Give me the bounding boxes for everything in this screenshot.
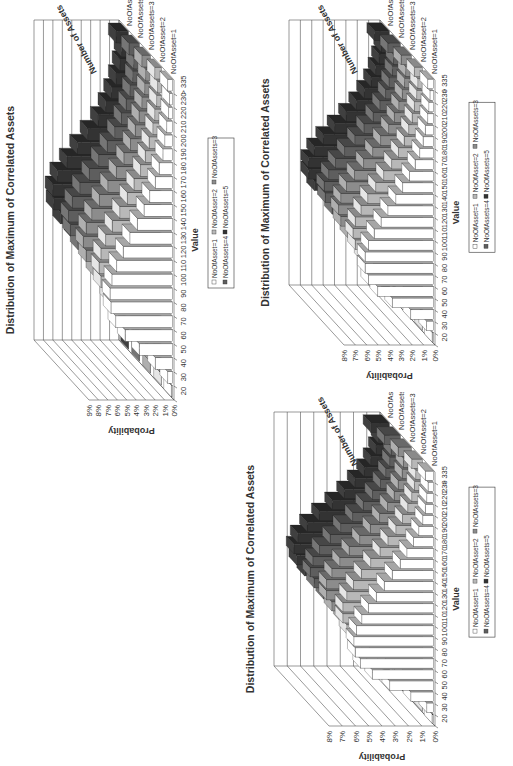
x-tick-label: 150 [440, 181, 449, 194]
series-axis-label: NoOfAssets=5 [125, 0, 134, 26]
series-axis-label: NoOfAsset=1 [169, 29, 178, 74]
bar [428, 114, 434, 124]
bar [407, 548, 434, 557]
bar [360, 659, 433, 668]
bar [163, 149, 172, 161]
x-tick-label: 70 [440, 659, 449, 667]
series-axis-label: NoOfAssets=4 [397, 392, 406, 430]
x-tick-label: 90 [440, 637, 449, 645]
legend-swatch [473, 629, 477, 633]
x-tick-label: 170 [179, 176, 188, 189]
series-axis-label: NoOfAsset=2 [419, 409, 428, 454]
x-tick-label: 140 [440, 193, 449, 206]
x-axis-label: Value [190, 228, 200, 252]
x-tick-label: 190 [440, 135, 449, 148]
legend-label: NoOfAsset=1 [211, 239, 218, 278]
z-axis-label: Number of Assets [315, 395, 360, 467]
legend-label: NoOfAssets=5 [483, 535, 490, 577]
bar [111, 302, 172, 314]
y-tick-label: 0% [431, 731, 440, 743]
x-tick-label: 40 [440, 310, 449, 318]
plot-area [34, 20, 174, 400]
x-tick-label: 110 [440, 228, 449, 240]
chart-b-svg: Distribution of Maximum of Correlated As… [255, 0, 513, 385]
bar [165, 135, 173, 147]
series-axis-label: NoOfAssets=3 [408, 1, 417, 50]
y-axis-label: Probability [108, 426, 155, 436]
legend-label: NoOfAssets=3 [472, 100, 479, 142]
chart-a: Distribution of Maximum of Correlated As… [0, 0, 252, 440]
chart-c: Distribution of Maximum of Correlated As… [240, 392, 513, 766]
y-tick-label: 6% [113, 405, 122, 417]
legend-swatch [212, 230, 216, 234]
x-tick-label: 20 [440, 714, 449, 722]
legend-label: NoOfAsset=2 [472, 153, 479, 192]
legend-label: NoOfAsset=2 [472, 538, 479, 577]
bar [144, 205, 172, 217]
chart-a-slot: Distribution of Maximum of Correlated As… [0, 0, 252, 440]
y-axis-label: Probability [359, 752, 406, 762]
chart-b: Distribution of Maximum of Correlated As… [255, 0, 513, 385]
legend-swatch [484, 629, 488, 633]
bar [368, 604, 433, 613]
y-axis-label: Probability [366, 371, 413, 381]
bar [357, 626, 434, 635]
bar [168, 79, 173, 91]
x-tick-label: 90 [440, 252, 449, 260]
bar [117, 260, 173, 272]
x-tick-label: 40 [440, 692, 449, 700]
bar [170, 93, 173, 105]
x-tick-label: > 335 [440, 466, 449, 485]
x-tick-label: 110 [179, 260, 188, 272]
y-tick-label: 7% [351, 350, 360, 362]
series-axis-label: NoOfAssets=5 [386, 392, 395, 418]
bar [429, 102, 434, 112]
bar [427, 493, 434, 502]
x-tick-label: 160 [440, 170, 449, 183]
bar [430, 91, 433, 101]
chart-c-svg: Distribution of Maximum of Correlated As… [240, 392, 513, 766]
x-tick-label: 200 [440, 513, 449, 526]
bar [390, 681, 434, 690]
x-tick-label: 180 [179, 162, 188, 175]
y-tick-label: 8% [325, 731, 334, 743]
x-tick-label: 230 [179, 93, 188, 106]
bar [400, 559, 433, 568]
bar [354, 637, 434, 646]
bar [427, 703, 434, 712]
x-tick-label: 40 [179, 359, 188, 367]
x-tick-label: 100 [179, 273, 188, 286]
bar [428, 79, 434, 89]
legend: NoOfAsset=1NoOfAsset=2NoOfAssets=3NoOfAs… [208, 136, 234, 288]
x-tick-label: 150 [440, 569, 449, 582]
bar [159, 163, 172, 175]
x-tick-label: 60 [440, 670, 449, 678]
z-axis-label: Number of Assets [315, 3, 360, 75]
x-tick-label: 90 [179, 289, 188, 297]
legend-label: NoOfAsset=2 [211, 189, 218, 228]
bar [167, 121, 173, 133]
x-tick-label: 210 [440, 502, 449, 515]
bar [116, 316, 173, 328]
series-axis-label: NoOfAssets=3 [147, 1, 156, 50]
x-tick-label: 130 [440, 204, 449, 217]
series-axis-label: NoOfAssets=4 [136, 0, 145, 38]
bar [376, 593, 433, 602]
x-tick-label: 100 [440, 239, 449, 252]
x-tick-label: 210 [440, 112, 449, 125]
y-tick-label: 2% [151, 405, 160, 417]
x-tick-label: 220 [440, 101, 449, 114]
x-tick-label: 50 [440, 299, 449, 307]
legend: NoOfAsset=1NoOfAsset=2NoOfAssets=3NoOfAs… [469, 100, 495, 252]
legend-label: NoOfAssets=5 [483, 150, 490, 192]
y-tick-label: 1% [418, 731, 427, 743]
legend-swatch [473, 144, 477, 148]
bar [425, 125, 433, 135]
y-tick-label: 7% [338, 731, 347, 743]
y-tick-label: 3% [391, 731, 400, 743]
bar [428, 482, 433, 491]
x-tick-label: 140 [179, 218, 188, 231]
legend: NoOfAsset=1NoOfAsset=2NoOfAssets=3NoOfAs… [469, 485, 495, 637]
y-tick-label: 5% [123, 405, 132, 417]
legend-label: NoOfAssets=5 [222, 186, 229, 228]
